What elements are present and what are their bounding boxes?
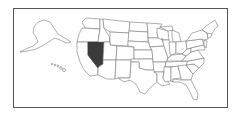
state-oregon: [77, 28, 100, 42]
state-connecticut: [207, 33, 212, 38]
state-florida: [173, 79, 198, 100]
state-indiana: [169, 42, 176, 55]
state-mississippi: [163, 67, 171, 82]
state-washington: [82, 18, 100, 29]
state-south-dakota: [128, 31, 148, 42]
state-alaska: [20, 20, 71, 52]
state-hawaii: [51, 63, 65, 71]
state-colorado: [116, 46, 134, 60]
state-new-mexico: [115, 60, 131, 79]
us-map: [0, 0, 238, 121]
state-wyoming: [110, 32, 129, 46]
state-kansas: [134, 50, 153, 59]
state-montana: [103, 19, 130, 33]
contiguous-us: [77, 18, 218, 100]
state-north-dakota: [129, 22, 148, 32]
